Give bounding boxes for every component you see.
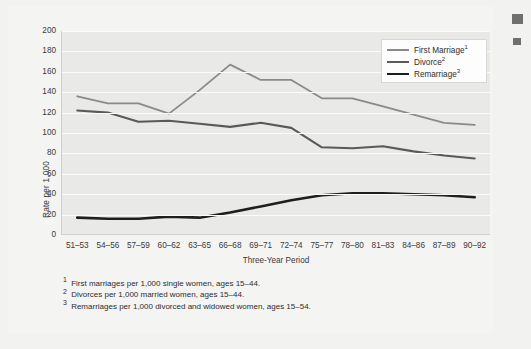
x-tick-label-7: 72–74	[280, 241, 303, 251]
y-axis-ticks: 200180160140120100806040200	[20, 0, 56, 349]
footnote-marker: 3	[63, 299, 67, 306]
gridline-20	[62, 215, 490, 216]
legend-label: Remarriage3	[414, 70, 460, 79]
x-tick-label-6: 69–71	[249, 241, 272, 251]
series-line-divorce	[77, 111, 474, 159]
gridline-140	[62, 92, 490, 93]
legend-item-divorce[interactable]: Divorce2	[387, 56, 481, 68]
y-tick-label-200: 200	[26, 27, 56, 35]
legend-item-first-marriage[interactable]: First Marriage1	[387, 44, 481, 56]
x-tick-label-11: 84–86	[402, 241, 425, 251]
figure-root: 200180160140120100806040200 Rate per 1,0…	[0, 0, 531, 349]
x-axis-line	[62, 234, 490, 235]
x-tick-label-8: 75–77	[311, 241, 334, 251]
footnotes: 1 First marriages per 1,000 single women…	[63, 278, 483, 312]
x-tick-label-4: 63–65	[188, 241, 211, 251]
x-tick-label-13: 90–92	[463, 241, 486, 251]
x-tick-label-5: 66–68	[219, 241, 242, 251]
y-axis-title: Rate per 1,000	[42, 130, 51, 250]
gridline-200	[62, 31, 490, 32]
y-tick-label-180: 180	[26, 47, 56, 55]
legend-label: Divorce2	[414, 58, 445, 67]
gridline-120	[62, 113, 490, 114]
x-tick-label-12: 87–89	[433, 241, 456, 251]
footnote-1: 1 First marriages per 1,000 single women…	[63, 278, 483, 289]
footnote-marker: 1	[63, 276, 67, 283]
legend-swatch-remarriage-icon	[387, 73, 409, 76]
legend-label: First Marriage1	[414, 46, 468, 55]
legend: First Marriage1Divorce2Remarriage3	[381, 39, 487, 83]
footnote-3: 3 Remarriages per 1,000 divorced and wid…	[63, 301, 483, 312]
x-axis-ticks: 51–5354–5657–5960–6263–6566–6869–7172–74…	[62, 241, 490, 255]
x-tick-label-2: 57–59	[127, 241, 150, 251]
scan-artifact-square-bottom	[513, 38, 521, 45]
footnote-marker: 2	[63, 288, 67, 295]
gridline-100	[62, 133, 490, 134]
y-axis-title-wrapper: Rate per 1,000	[22, 80, 36, 170]
x-tick-label-1: 54–56	[97, 241, 120, 251]
x-axis-title: Three-Year Period	[62, 256, 490, 265]
y-tick-label-160: 160	[26, 68, 56, 76]
footnote-2: 2 Divorces per 1,000 married women, ages…	[63, 289, 483, 300]
x-tick-label-10: 81–83	[372, 241, 395, 251]
gridline-60	[62, 174, 490, 175]
scan-artifact-square-top	[512, 14, 523, 24]
x-tick-label-3: 60–62	[158, 241, 181, 251]
gridline-40	[62, 194, 490, 195]
legend-item-remarriage[interactable]: Remarriage3	[387, 68, 481, 80]
x-tick-label-9: 78–80	[341, 241, 364, 251]
legend-swatch-divorce-icon	[387, 61, 409, 63]
gridline-80	[62, 153, 490, 154]
legend-swatch-first-marriage-icon	[387, 49, 409, 51]
x-tick-label-0: 51–53	[66, 241, 89, 251]
